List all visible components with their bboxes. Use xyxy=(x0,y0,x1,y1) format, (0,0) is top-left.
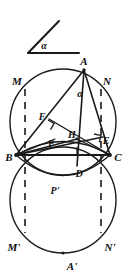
label-point-Pprime: P' xyxy=(51,185,60,196)
label-point-Aprime: A' xyxy=(66,260,77,272)
label-point-N: N xyxy=(102,75,112,87)
standalone-angle-group xyxy=(28,21,79,53)
label-point-C: C xyxy=(114,151,122,163)
vertex-dot-H xyxy=(76,138,79,141)
vertex-dot-A xyxy=(82,68,85,71)
label-point-D: D xyxy=(74,168,82,179)
vertex-dot-B xyxy=(14,153,18,157)
label-angle-alpha-at-A: α xyxy=(77,88,83,99)
geometry-figure: A B C D E F H M N P P' M' N' A' α α xyxy=(0,0,132,280)
vertex-dot-Aprime xyxy=(62,252,65,255)
label-point-B: B xyxy=(4,151,12,163)
solid-segments-group xyxy=(16,70,110,166)
label-point-M: M xyxy=(11,75,23,87)
vertex-dot-C xyxy=(108,153,112,157)
geometry-canvas: A B C D E F H M N P P' M' N' A' α α xyxy=(0,0,132,280)
label-point-F: F xyxy=(38,111,46,122)
label-point-Nprime: N' xyxy=(104,241,116,253)
label-point-E: E xyxy=(102,135,110,146)
label-point-A: A xyxy=(79,55,87,67)
label-point-P: P xyxy=(48,138,55,149)
label-point-H: H xyxy=(67,129,77,140)
label-point-Mprime: M' xyxy=(7,241,21,253)
dashed-chords-group xyxy=(25,89,101,233)
label-angle-alpha-gadget: α xyxy=(41,40,47,51)
